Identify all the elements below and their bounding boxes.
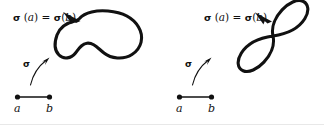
equals-sign-simple: = <box>42 11 51 23</box>
panel-simple-closed-curve: σ (a) = σ(b) σ a b <box>0 0 162 125</box>
argument-b-figure-eight: b <box>256 11 263 23</box>
endpoint-label-a-simple: a <box>14 103 21 114</box>
sigma-symbol-right-simple: σ <box>54 12 61 23</box>
map-arrow-shaft-figure-eight <box>193 60 209 85</box>
equals-sign-figure-eight: = <box>233 11 242 23</box>
panel-figure-eight-curve: σ (a) = σ(b) σ a b <box>162 0 324 125</box>
open-paren-left-figure-eight: ( <box>211 11 218 23</box>
equation-label-figure-eight: σ (a) = σ(b) <box>204 12 267 23</box>
endpoint-label-b-simple: b <box>46 103 53 114</box>
map-label-figure-eight: σ <box>185 60 192 69</box>
endpoint-label-b-figure-eight: b <box>208 103 215 114</box>
endpoint-dot-a-simple <box>15 94 20 99</box>
close-paren-right-simple: ) <box>72 11 76 23</box>
endpoint-dot-b-figure-eight <box>209 94 214 99</box>
endpoint-dot-a-figure-eight <box>177 94 182 99</box>
map-arrow-shaft-simple <box>31 60 47 85</box>
argument-b-simple: b <box>65 11 72 23</box>
equation-label-simple: σ (a) = σ(b) <box>13 12 76 23</box>
close-paren-left-figure-eight: ) <box>225 11 229 23</box>
open-paren-left-simple: ( <box>20 11 27 23</box>
close-paren-left-simple: ) <box>34 11 38 23</box>
sigma-symbol-right-figure-eight: σ <box>245 12 252 23</box>
bottom-rule <box>0 124 324 125</box>
endpoint-dot-b-simple <box>47 94 52 99</box>
figure-canvas: σ (a) = σ(b) σ a b σ (a) = σ(b) σ a <box>0 0 324 125</box>
close-paren-right-figure-eight: ) <box>263 11 267 23</box>
endpoint-label-a-figure-eight: a <box>176 103 183 114</box>
map-label-simple: σ <box>23 60 30 69</box>
